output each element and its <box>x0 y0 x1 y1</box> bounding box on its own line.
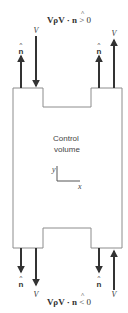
y-axis-label: y <box>51 165 56 174</box>
nhat-hat-bottom-left: ^ <box>20 275 23 281</box>
bottom-flux-condition: VρV · n < 0 <box>47 297 92 307</box>
velocity-label-bottom-right: V <box>112 290 118 299</box>
nhat-label-top-right: n <box>97 47 102 56</box>
velocity-label-bottom-left: V <box>34 290 40 299</box>
nhat-label-top-left: n <box>19 47 24 56</box>
control-volume-outline <box>13 88 122 248</box>
x-axis-label: x <box>77 182 82 191</box>
coordinate-axes <box>57 166 80 181</box>
nhat-hat-bottom-right: ^ <box>98 275 101 281</box>
nhat-hat-top-left: ^ <box>20 42 23 48</box>
control-volume-diagram: VρV · n > 0 ^ n ^ V n ^ V Control volume… <box>0 0 128 313</box>
top-flux-condition: VρV · n > 0 <box>47 15 92 25</box>
nhat-label-bottom-right: n <box>97 280 102 289</box>
velocity-label-top-right: V <box>112 29 118 38</box>
nhat-label-bottom-left: n <box>19 280 24 289</box>
control-volume-label: Control volume <box>53 134 81 154</box>
velocity-label-top-left: V <box>34 26 40 35</box>
nhat-hat-top-right: ^ <box>98 42 101 48</box>
